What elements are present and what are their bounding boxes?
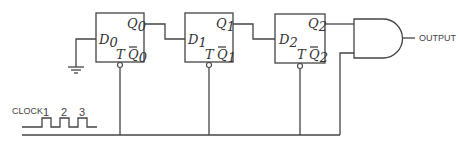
clock-bubble-1: [207, 63, 212, 68]
t0-label: T: [116, 47, 126, 62]
clock-bubble-2: [298, 64, 303, 69]
pulse-label-2: 2: [61, 106, 67, 118]
ground-symbol: [68, 39, 96, 73]
flip-flop-0: D0 Q0 T Q0: [96, 13, 147, 68]
and-gate: OUTPUT: [354, 19, 457, 58]
flip-flop-1: D1 Q1 T Q1: [185, 13, 236, 68]
flip-flop-2: D2 Q2 T Q2: [275, 14, 328, 69]
clock-bubble-0: [118, 63, 123, 68]
clock-bus: [22, 53, 354, 135]
clock-waveform: CLOCK 1 2 3: [12, 106, 97, 127]
clock-label: CLOCK: [12, 106, 43, 116]
wire-q1-d2: [233, 24, 275, 39]
circuit-diagram: D0 Q0 T Q0 D1 Q1 T Q1 D2 Q2 T Q2 OUTPUT: [0, 0, 459, 150]
t1-label: T: [205, 47, 215, 62]
output-label: OUTPUT: [419, 33, 457, 43]
wire-q0-d1: [144, 24, 185, 39]
pulse-label-3: 3: [79, 106, 85, 118]
pulse-label-1: 1: [43, 106, 49, 118]
t2-label: T: [297, 47, 307, 62]
